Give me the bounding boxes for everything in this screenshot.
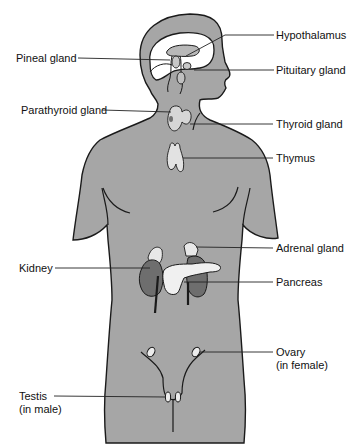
label-hypothalamus: Hypothalamus (276, 29, 346, 41)
label-testis: Testis (in male) (19, 390, 62, 415)
label-kidney: Kidney (19, 262, 53, 274)
parathyroid-gland (169, 116, 173, 122)
label-parathyroid-gland: Parathyroid gland (21, 104, 107, 116)
label-adrenal-gland: Adrenal gland (276, 242, 344, 254)
pineal-gland (172, 56, 180, 68)
pituitary-gland (183, 63, 191, 70)
cerebellum (177, 72, 185, 84)
label-pineal-gland: Pineal gland (16, 52, 77, 64)
body-silhouette (73, 14, 278, 443)
label-thyroid-gland: Thyroid gland (276, 118, 343, 130)
label-ovary-line2: (in female) (276, 359, 328, 372)
label-testis-line2: (in male) (19, 403, 62, 416)
kidney-left (139, 260, 163, 296)
label-ovary-line1: Ovary (276, 346, 328, 359)
label-ovary: Ovary (in female) (276, 346, 328, 371)
label-pancreas: Pancreas (276, 276, 322, 288)
testis-right (175, 392, 180, 402)
testis-left (165, 392, 170, 402)
label-thymus: Thymus (276, 152, 315, 164)
label-pituitary-gland: Pituitary gland (276, 64, 346, 76)
label-testis-line1: Testis (19, 390, 62, 403)
